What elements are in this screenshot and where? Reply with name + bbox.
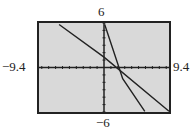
graph-screen (37, 21, 171, 114)
xmax-label: 9.4 (173, 60, 189, 73)
ymax-label: 6 (98, 5, 105, 18)
ymin-label: −6 (96, 116, 110, 129)
xmin-label: −9.4 (2, 60, 26, 73)
